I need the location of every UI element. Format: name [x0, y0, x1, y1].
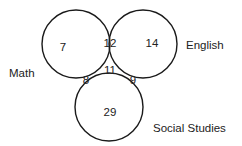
region-math-social: 8: [83, 74, 89, 86]
region-math-only: 7: [60, 41, 66, 53]
region-english-social: 9: [130, 74, 136, 86]
math-circle: [42, 10, 110, 78]
english-label: English: [186, 39, 224, 51]
social-studies-label: Social Studies: [153, 122, 226, 134]
region-all-three: 11: [104, 64, 116, 76]
math-label: Math: [9, 67, 35, 79]
region-social-only: 29: [104, 106, 117, 118]
region-english-only: 14: [146, 37, 159, 49]
region-math-english: 12: [104, 37, 117, 49]
english-circle: [109, 10, 177, 78]
venn-diagram: Math English Social Studies 7 12 14 11 8…: [0, 0, 242, 146]
